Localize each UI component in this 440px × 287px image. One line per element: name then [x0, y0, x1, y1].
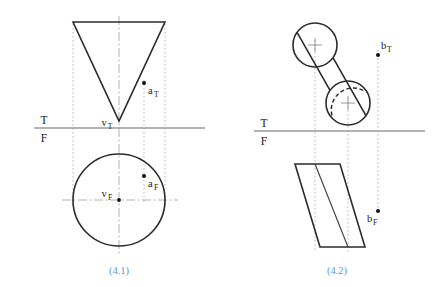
fold-line-top-label-4-1: T	[40, 114, 47, 126]
fold-line-bottom-label-4-2: F	[261, 135, 267, 147]
cylinder-silhouette-right	[333, 58, 366, 116]
drawing-canvas: T F v T v F a T	[0, 0, 440, 287]
point-b-front-letter: b	[367, 213, 372, 224]
point-b-front-dot	[376, 209, 380, 213]
cylinder-front-view-parallelogram	[295, 164, 365, 247]
center-label-vf-letter: v	[101, 188, 107, 199]
point-a-front-letter: a	[148, 178, 153, 189]
fold-line-bottom-label-4-1: F	[41, 132, 47, 144]
cylinder-top-view	[293, 23, 370, 125]
point-a-top: a T	[142, 81, 159, 99]
point-a-front-subscript: F	[154, 183, 158, 192]
apex-label-vt-subscript: T	[108, 122, 113, 131]
point-b-top: b T	[376, 40, 392, 57]
point-b-front: b F	[367, 209, 380, 227]
point-a-top-letter: a	[148, 85, 153, 96]
caption-figure-4-1: (4.1)	[109, 265, 130, 277]
cone-front-view-center-dot	[117, 198, 121, 202]
center-label-vf-subscript: F	[108, 193, 112, 202]
point-b-front-subscript: F	[373, 218, 377, 227]
apex-label-vt-letter: v	[101, 117, 107, 128]
apex-label-vt: v T	[101, 117, 112, 131]
point-a-front-dot	[142, 174, 146, 178]
point-a-top-dot	[142, 81, 146, 85]
point-b-top-subscript: T	[387, 45, 392, 54]
point-b-top-dot	[376, 53, 380, 57]
cylinder-front-view	[295, 164, 365, 247]
figure-4-1-group: T F v T v F a T	[34, 16, 205, 277]
point-b-top-letter: b	[381, 40, 386, 51]
caption-figure-4-2: (4.2)	[327, 265, 348, 277]
figure-4-2-group: T F	[254, 23, 425, 277]
cylinder-silhouette-left	[297, 32, 330, 90]
fold-line-top-label-4-2: T	[260, 117, 267, 129]
point-a-top-subscript: T	[154, 90, 159, 99]
orthographic-projection-figure: T F v T v F a T	[0, 0, 440, 287]
